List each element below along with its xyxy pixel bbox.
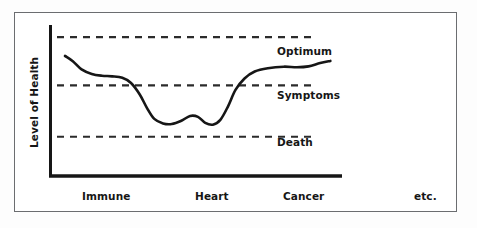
y-axis-label: Level of Health <box>28 57 40 148</box>
health-level-diagram: Level of Health Optimum Symptoms Death I… <box>0 0 477 228</box>
threshold-label-death: Death <box>277 136 313 148</box>
threshold-label-symptoms: Symptoms <box>277 89 340 101</box>
x-tick-label-heart: Heart <box>195 190 229 202</box>
x-tick-label-immune: Immune <box>82 190 130 202</box>
x-tick-label-cancer: Cancer <box>283 190 324 202</box>
threshold-label-optimum: Optimum <box>277 45 332 57</box>
annotation-etc: etc. <box>414 190 437 202</box>
plot-canvas <box>0 0 477 228</box>
